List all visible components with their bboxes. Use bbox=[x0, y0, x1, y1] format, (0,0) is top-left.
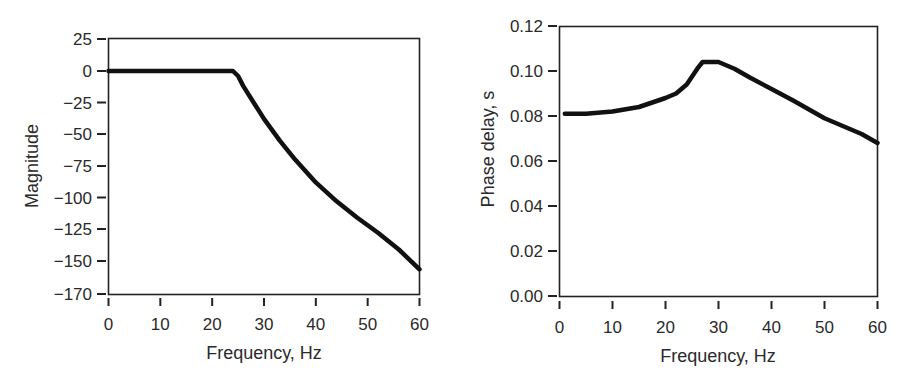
y-axis-label: Phase delay, s bbox=[478, 91, 498, 208]
x-tick-label: 0 bbox=[555, 318, 564, 337]
y-tick-label: 0.02 bbox=[510, 242, 543, 261]
x-tick-label: 30 bbox=[709, 318, 728, 337]
x-tick-label: 40 bbox=[306, 315, 325, 334]
y-tick-label: −25 bbox=[63, 94, 92, 113]
x-axis-label: Frequency, Hz bbox=[660, 346, 776, 366]
x-tick-label: 40 bbox=[762, 318, 781, 337]
x-tick-label: 60 bbox=[410, 315, 429, 334]
y-tick-label: 25 bbox=[73, 30, 92, 49]
plot-frame bbox=[560, 27, 878, 297]
y-tick-label: 0.06 bbox=[510, 152, 543, 171]
x-tick-label: 10 bbox=[151, 315, 170, 334]
x-tick-label: 20 bbox=[203, 315, 222, 334]
y-tick-label: −125 bbox=[54, 220, 92, 239]
x-tick-label: 50 bbox=[815, 318, 834, 337]
x-axis-label: Frequency, Hz bbox=[206, 343, 322, 363]
x-tick-label: 0 bbox=[104, 315, 113, 334]
y-tick-label: 0.10 bbox=[510, 62, 543, 81]
x-axis-ticks: 0102030405060 bbox=[555, 301, 887, 337]
y-tick-label: −170 bbox=[54, 285, 92, 304]
y-axis-ticks: 250−25−50−75−100−125−150−170 bbox=[54, 30, 106, 304]
x-axis-ticks: 0102030405060 bbox=[104, 298, 429, 334]
phase-delay-chart: 0.120.100.080.060.040.020.00 01020304050… bbox=[458, 0, 916, 383]
y-axis-ticks: 0.120.100.080.060.040.020.00 bbox=[510, 17, 557, 306]
y-tick-label: 0.00 bbox=[510, 287, 543, 306]
x-tick-label: 50 bbox=[358, 315, 377, 334]
y-tick-label: −75 bbox=[63, 157, 92, 176]
y-axis-label: Magnitude bbox=[22, 124, 42, 208]
x-tick-label: 60 bbox=[868, 318, 887, 337]
y-tick-label: −100 bbox=[54, 189, 92, 208]
y-tick-label: 0 bbox=[83, 62, 92, 81]
y-tick-label: 0.08 bbox=[510, 107, 543, 126]
y-tick-label: −150 bbox=[54, 252, 92, 271]
y-tick-label: 0.12 bbox=[510, 17, 543, 36]
x-tick-label: 10 bbox=[603, 318, 622, 337]
magnitude-curve bbox=[109, 71, 420, 269]
plot-frame bbox=[109, 39, 420, 295]
phase-delay-curve bbox=[565, 62, 878, 143]
x-tick-label: 30 bbox=[255, 315, 274, 334]
y-tick-label: −50 bbox=[63, 125, 92, 144]
magnitude-chart: 250−25−50−75−100−125−150−170 01020304050… bbox=[0, 0, 458, 383]
y-tick-label: 0.04 bbox=[510, 197, 543, 216]
x-tick-label: 20 bbox=[656, 318, 675, 337]
